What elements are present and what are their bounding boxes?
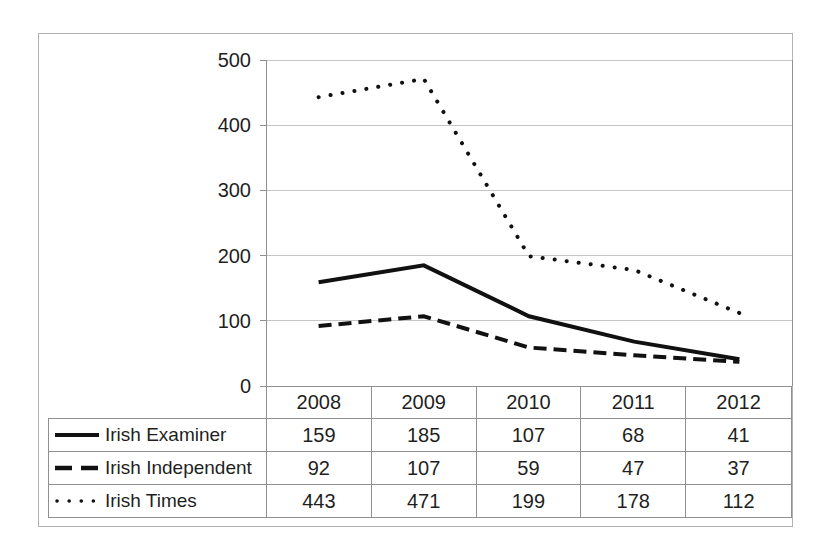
value-cell: 59 — [476, 452, 581, 485]
year-header-cell: 2011 — [581, 387, 686, 419]
dotted-line-key-icon — [55, 497, 99, 505]
value-cell: 159 — [266, 419, 371, 452]
screenshot-canvas: 0100200300400500 20082009201020112012Iri… — [0, 0, 829, 554]
year-header-row: 20082009201020112012 — [49, 387, 792, 419]
dashed-line-key-icon — [55, 464, 99, 472]
value-cell: 178 — [581, 485, 686, 518]
solid-line-key-icon — [55, 431, 99, 439]
y-axis-tick-label: 200 — [39, 246, 251, 266]
table-row: Irish Times443471199178112 — [49, 485, 792, 518]
series-name-label: Irish Times — [105, 490, 197, 512]
legend-entry: Irish Examiner — [49, 424, 266, 446]
year-header-cell: 2010 — [476, 387, 581, 419]
value-cell: 47 — [581, 452, 686, 485]
value-cell: 112 — [686, 485, 792, 518]
legend-entry: Irish Times — [49, 490, 266, 512]
y-axis-tick-label: 300 — [39, 180, 251, 200]
line-chart-plot — [260, 60, 792, 386]
legend-cell: Irish Times — [49, 485, 267, 518]
value-cell: 41 — [686, 419, 792, 452]
y-axis-tick-label: 400 — [39, 115, 251, 135]
legend-cell: Irish Examiner — [49, 419, 267, 452]
value-cell: 471 — [371, 485, 476, 518]
series-line-irish-examiner — [319, 265, 740, 359]
series-line-irish-independent — [319, 316, 740, 362]
year-header-cell: 2008 — [266, 387, 371, 419]
value-cell: 92 — [266, 452, 371, 485]
series-name-label: Irish Examiner — [105, 424, 226, 446]
year-header-cell: 2012 — [686, 387, 792, 419]
y-axis-tick-label: 100 — [39, 311, 251, 331]
table-row: Irish Examiner1591851076841 — [49, 419, 792, 452]
value-cell: 199 — [476, 485, 581, 518]
value-cell: 68 — [581, 419, 686, 452]
legend-entry: Irish Independent — [49, 457, 266, 479]
table-row: Irish Independent92107594737 — [49, 452, 792, 485]
legend-cell: Irish Independent — [49, 452, 267, 485]
value-cell: 37 — [686, 452, 792, 485]
series-line-irish-times — [319, 79, 740, 313]
y-axis-tick-label: 500 — [39, 50, 251, 70]
table-corner-blank — [49, 387, 267, 419]
value-cell: 443 — [266, 485, 371, 518]
value-cell: 107 — [476, 419, 581, 452]
chart-data-table: 20082009201020112012Irish Examiner159185… — [48, 386, 792, 518]
series-name-label: Irish Independent — [105, 457, 252, 479]
year-header-cell: 2009 — [371, 387, 476, 419]
value-cell: 185 — [371, 419, 476, 452]
chart-figure: 0100200300400500 20082009201020112012Iri… — [38, 33, 793, 527]
value-cell: 107 — [371, 452, 476, 485]
